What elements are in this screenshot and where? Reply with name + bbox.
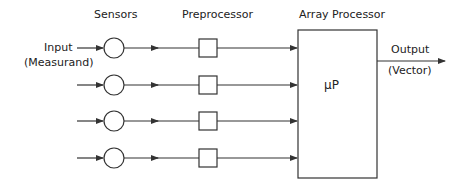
array-processor-box — [298, 30, 377, 178]
output-sublabel: (Vector) — [388, 64, 432, 77]
channel-4 — [77, 148, 297, 168]
output-label: Output — [391, 43, 429, 56]
channel-2 — [77, 75, 297, 95]
channel-3 — [77, 111, 297, 131]
preprocessor-header: Preprocessor — [182, 8, 253, 21]
channel-1 — [77, 38, 297, 58]
microprocessor-label: μP — [324, 78, 339, 92]
input-sublabel: (Measurand) — [24, 56, 94, 69]
sensor-array-diagram — [0, 0, 467, 191]
array-processor-header: Array Processor — [299, 8, 385, 21]
input-label: Input — [44, 41, 72, 54]
sensors-header: Sensors — [94, 8, 137, 21]
